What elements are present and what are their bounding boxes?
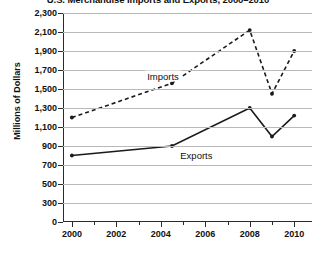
y-tick-mark bbox=[58, 108, 63, 109]
x-tick-label: 2000 bbox=[62, 229, 82, 239]
x-minor-tick-mark bbox=[183, 222, 184, 225]
gridline bbox=[63, 146, 312, 147]
data-point-imports bbox=[70, 116, 74, 120]
x-tick-mark bbox=[116, 222, 117, 227]
gridline bbox=[63, 203, 312, 204]
gridline bbox=[63, 89, 312, 90]
x-tick-mark bbox=[72, 222, 73, 227]
gridline bbox=[63, 127, 312, 128]
gridline bbox=[63, 70, 312, 71]
y-tick-mark bbox=[58, 184, 63, 185]
y-tick-mark bbox=[58, 127, 63, 128]
chart-figure: U.S. Merchandise Imports and Exports, 20… bbox=[0, 0, 316, 253]
x-minor-tick-mark bbox=[272, 222, 273, 225]
y-tick-mark bbox=[58, 165, 63, 166]
x-tick-mark bbox=[250, 222, 251, 227]
y-tick-label: 700 bbox=[42, 160, 57, 170]
y-tick-label: 1,300 bbox=[34, 103, 57, 113]
gridline bbox=[63, 32, 312, 33]
x-minor-tick-mark bbox=[139, 222, 140, 225]
y-tick-mark bbox=[58, 203, 63, 204]
gridline bbox=[63, 108, 312, 109]
y-tick-mark bbox=[58, 146, 63, 147]
y-tick-label: 2,300 bbox=[34, 8, 57, 18]
gridline bbox=[63, 184, 312, 185]
y-tick-mark bbox=[58, 70, 63, 71]
y-tick-mark bbox=[58, 222, 63, 223]
data-point-imports bbox=[170, 81, 174, 85]
x-minor-tick-mark bbox=[228, 222, 229, 225]
y-tick-mark bbox=[58, 89, 63, 90]
data-point-exports bbox=[70, 154, 74, 158]
x-tick-mark bbox=[205, 222, 206, 227]
chart-title: U.S. Merchandise Imports and Exports, 20… bbox=[0, 0, 316, 5]
y-tick-label: 1,100 bbox=[34, 122, 57, 132]
plot-area: 03005007009001,1001,3001,5001,7001,9002,… bbox=[63, 13, 312, 222]
series-label-exports: Exports bbox=[178, 149, 214, 160]
x-tick-label: 2002 bbox=[106, 229, 126, 239]
y-tick-mark bbox=[58, 51, 63, 52]
series-layer bbox=[63, 13, 312, 222]
data-point-imports bbox=[270, 92, 274, 96]
y-tick-label: 1,700 bbox=[34, 65, 57, 75]
x-tick-mark bbox=[161, 222, 162, 227]
y-tick-label: 0 bbox=[52, 217, 57, 227]
gridline bbox=[63, 51, 312, 52]
x-minor-tick-mark bbox=[94, 222, 95, 225]
y-tick-label: 1,900 bbox=[34, 46, 57, 56]
y-tick-mark bbox=[58, 32, 63, 33]
y-tick-label: 500 bbox=[42, 179, 57, 189]
series-label-imports: Imports bbox=[145, 70, 181, 81]
y-tick-label: 1,500 bbox=[34, 84, 57, 94]
x-tick-label: 2006 bbox=[195, 229, 215, 239]
x-tick-mark bbox=[294, 222, 295, 227]
gridline bbox=[63, 165, 312, 166]
y-axis-title: Millions of Dollars bbox=[12, 36, 22, 166]
y-tick-label: 2,100 bbox=[34, 27, 57, 37]
y-tick-mark bbox=[58, 13, 63, 14]
gridline bbox=[63, 13, 312, 14]
y-tick-label: 300 bbox=[42, 198, 57, 208]
series-line-imports bbox=[72, 30, 294, 117]
x-tick-label: 2008 bbox=[240, 229, 260, 239]
x-tick-label: 2004 bbox=[151, 229, 171, 239]
x-tick-label: 2010 bbox=[284, 229, 304, 239]
data-point-exports bbox=[270, 135, 274, 139]
data-point-exports bbox=[292, 114, 296, 118]
y-tick-label: 900 bbox=[42, 141, 57, 151]
